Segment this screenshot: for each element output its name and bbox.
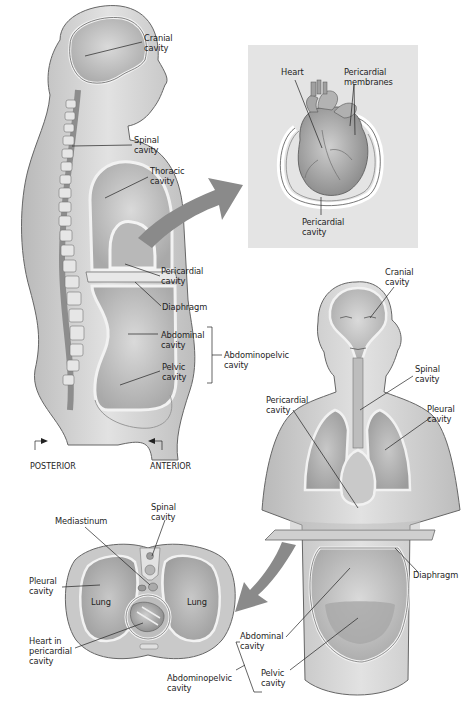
label-lateral-thoracic-cavity: Thoracic cavity bbox=[150, 166, 185, 186]
label-cross-section-pleural-cavity: Pleural cavity bbox=[29, 576, 57, 596]
label-pericardial-membranes: Pericardial membranes bbox=[344, 67, 393, 87]
heart-shape bbox=[298, 107, 368, 195]
label-anterior-pleural-cavity: Pleural cavity bbox=[427, 404, 455, 424]
label-anterior-abdominopelvic-cavity: Abdominopelvic cavity bbox=[167, 673, 232, 693]
label-lateral-pelvic-cavity: Pelvic cavity bbox=[162, 362, 186, 382]
label-anterior-pericardial-cavity: Pericardial cavity bbox=[266, 395, 308, 415]
label-mediastinum: Mediastinum bbox=[55, 516, 107, 526]
label-anterior-cranial-cavity: Cranial cavity bbox=[385, 267, 414, 287]
anterior-spinal-cavity bbox=[353, 358, 363, 448]
label-lateral-pericardial-cavity: Pericardial cavity bbox=[161, 266, 203, 286]
label-cross-section-spinal-cavity: Spinal cavity bbox=[151, 502, 176, 522]
label-lateral-cranial-cavity: Cranial cavity bbox=[144, 33, 173, 53]
label-anterior-pelvic-cavity: Pelvic cavity bbox=[261, 668, 285, 688]
label-anterior-spinal-cavity: Spinal cavity bbox=[415, 364, 440, 384]
label-anterior: ANTERIOR bbox=[150, 462, 191, 472]
label-heart-pericardial-cavity: Pericardial cavity bbox=[302, 217, 344, 237]
anterior-view-figure bbox=[262, 282, 460, 695]
label-lateral-abdominopelvic-cavity: Abdominopelvic cavity bbox=[224, 350, 289, 370]
label-posterior: POSTERIOR bbox=[30, 462, 76, 472]
label-lateral-diaphragm: Diaphragm bbox=[162, 302, 207, 312]
label-anterior-diaphragm: Diaphragm bbox=[413, 570, 458, 580]
label-lung-left: Lung bbox=[91, 597, 111, 607]
label-anterior-abdominal-cavity: Abdominal cavity bbox=[240, 631, 283, 651]
label-lateral-spinal-cavity: Spinal cavity bbox=[134, 135, 159, 155]
transverse-plane bbox=[265, 530, 435, 540]
posterior-arrowhead bbox=[41, 438, 48, 444]
label-heart: Heart bbox=[281, 67, 304, 77]
label-heart-in-pericardial-cavity: Heart in pericardial cavity bbox=[29, 636, 72, 666]
label-lung-right: Lung bbox=[187, 597, 207, 607]
zoom-arrow-to-cross-section bbox=[235, 542, 296, 612]
label-lateral-abdominal-cavity: Abdominal cavity bbox=[161, 330, 204, 350]
